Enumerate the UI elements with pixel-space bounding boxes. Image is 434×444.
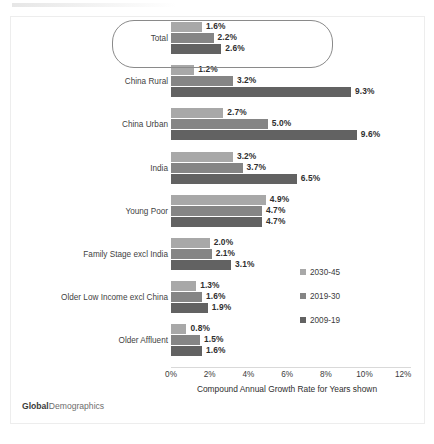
bar-value-label: 2.0% <box>214 237 234 247</box>
x-axis-tick-labels: 0%2%4%6%8%10%12% <box>0 370 434 382</box>
x-axis-tick: 6% <box>281 370 293 379</box>
x-axis-tick: 4% <box>242 370 254 379</box>
bar-value-label: 4.7% <box>266 216 286 226</box>
bar-2030-45[interactable] <box>171 281 196 291</box>
bar-2009-19[interactable] <box>171 217 262 227</box>
legend-item[interactable]: 2030-45 <box>300 260 340 284</box>
legend-label: 2030-45 <box>310 268 340 277</box>
bar-value-label: 9.3% <box>355 86 375 96</box>
category-label: Family Stage excl India <box>4 250 168 259</box>
bar-2009-19[interactable] <box>171 174 297 184</box>
chart-row: India3.2%3.7%6.5% <box>0 152 434 188</box>
legend-swatch-icon <box>300 269 306 275</box>
legend-swatch-icon <box>300 293 306 299</box>
bar-2030-45[interactable] <box>171 238 210 248</box>
category-label: Older Low Income excl China <box>4 293 168 302</box>
legend-swatch-icon <box>300 317 306 323</box>
chart-row: Young Poor4.9%4.7%4.7% <box>0 195 434 231</box>
chart-row: China Rural1.2%3.2%9.3% <box>0 65 434 101</box>
bar-value-label: 1.9% <box>212 302 232 312</box>
brand-secondary: Demographics <box>49 401 104 411</box>
bar-2019-30[interactable] <box>171 76 233 86</box>
bar-value-label: 4.7% <box>266 205 286 215</box>
x-axis-line <box>171 367 411 368</box>
legend-label: 2019-30 <box>310 292 340 301</box>
bar-value-label: 1.5% <box>204 334 224 344</box>
bar-value-label: 3.2% <box>237 151 257 161</box>
bar-2019-30[interactable] <box>171 292 202 302</box>
bar-2009-19[interactable] <box>171 303 208 313</box>
legend-item[interactable]: 2009-19 <box>300 308 340 332</box>
x-axis-tick: 10% <box>356 370 372 379</box>
bar-2030-45[interactable] <box>171 195 266 205</box>
x-axis-tick: 2% <box>204 370 216 379</box>
category-label: Older Affluent <box>4 336 168 345</box>
bar-value-label: 3.2% <box>237 75 257 85</box>
category-label: India <box>4 164 168 173</box>
bar-value-label: 2.1% <box>216 248 236 258</box>
bar-2030-45[interactable] <box>171 108 223 118</box>
bar-value-label: 3.7% <box>247 162 267 172</box>
x-axis-tick: 0% <box>165 370 177 379</box>
bar-2019-30[interactable] <box>171 249 212 259</box>
bar-2009-19[interactable] <box>171 260 231 270</box>
bar-value-label: 1.6% <box>206 345 226 355</box>
bar-value-label: 9.6% <box>361 129 381 139</box>
chart-row: Older Low Income excl China1.3%1.6%1.9% <box>0 281 434 317</box>
chart-row: Older Affluent0.8%1.5%1.6% <box>0 324 434 360</box>
bar-2030-45[interactable] <box>171 152 233 162</box>
bar-value-label: 4.9% <box>270 194 290 204</box>
bar-2009-19[interactable] <box>171 346 202 356</box>
bar-value-label: 6.5% <box>301 173 321 183</box>
bar-2019-30[interactable] <box>171 163 243 173</box>
brand-logo: GlobalDemographics <box>22 401 104 411</box>
bar-value-label: 1.3% <box>200 280 220 290</box>
chart-row: Family Stage excl India2.0%2.1%3.1% <box>0 238 434 274</box>
total-highlight-box <box>112 20 333 68</box>
legend-item[interactable]: 2019-30 <box>300 284 340 308</box>
category-label: Young Poor <box>4 207 168 216</box>
bar-2009-19[interactable] <box>171 87 351 97</box>
brand-primary: Global <box>22 401 49 411</box>
category-label: China Rural <box>4 77 168 86</box>
chart-container: Total1.6%2.2%2.6%China Rural1.2%3.2%9.3%… <box>0 0 434 444</box>
x-axis-tick: 12% <box>395 370 411 379</box>
chart-row: China Urban2.7%5.0%9.6% <box>0 108 434 144</box>
bar-2019-30[interactable] <box>171 119 268 129</box>
chart-legend: 2030-452019-302009-19 <box>300 260 340 332</box>
bar-2019-30[interactable] <box>171 206 262 216</box>
bar-2009-19[interactable] <box>171 130 357 140</box>
x-axis-tick: 8% <box>320 370 332 379</box>
bar-2019-30[interactable] <box>171 335 200 345</box>
bar-value-label: 3.1% <box>235 259 255 269</box>
legend-label: 2009-19 <box>310 316 340 325</box>
bar-value-label: 5.0% <box>272 118 292 128</box>
category-label: China Urban <box>4 120 168 129</box>
bar-value-label: 0.8% <box>190 323 210 333</box>
x-axis-title: Compound Annual Growth Rate for Years sh… <box>167 384 407 394</box>
bar-2030-45[interactable] <box>171 324 186 334</box>
bar-value-label: 1.6% <box>206 291 226 301</box>
bar-value-label: 2.7% <box>227 107 247 117</box>
